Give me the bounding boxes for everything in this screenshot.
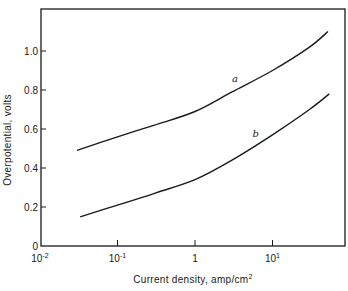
x-axis-title: Current density, amp/cm2 <box>133 273 252 285</box>
x-tick-label: 101 <box>265 252 280 264</box>
y-tick-label: 0 <box>32 241 38 252</box>
x-axis: 10-210-11101 <box>31 240 280 264</box>
y-tick-label: 0.4 <box>24 163 38 174</box>
curve-label-b: b <box>252 128 258 139</box>
curve-a <box>77 32 328 151</box>
y-axis-title: Overpotential, volts <box>2 94 13 186</box>
y-tick-label: 0.2 <box>24 202 38 213</box>
plot-frame <box>41 9 345 246</box>
y-axis: 00.20.40.60.81.0 <box>24 46 46 252</box>
overpotential-chart: 00.20.40.60.81.0 10-210-11101 ab Current… <box>0 0 348 291</box>
y-tick-label: 0.8 <box>24 85 38 96</box>
curve-label-a: a <box>232 73 238 84</box>
x-tick-label: 10-2 <box>31 252 48 264</box>
plot-curves: ab <box>77 32 329 217</box>
x-tick-label: 10-1 <box>109 252 126 264</box>
y-tick-label: 0.6 <box>24 124 38 135</box>
curve-b <box>80 94 329 217</box>
y-tick-label: 1.0 <box>24 46 38 57</box>
x-tick-label: 1 <box>192 253 198 264</box>
